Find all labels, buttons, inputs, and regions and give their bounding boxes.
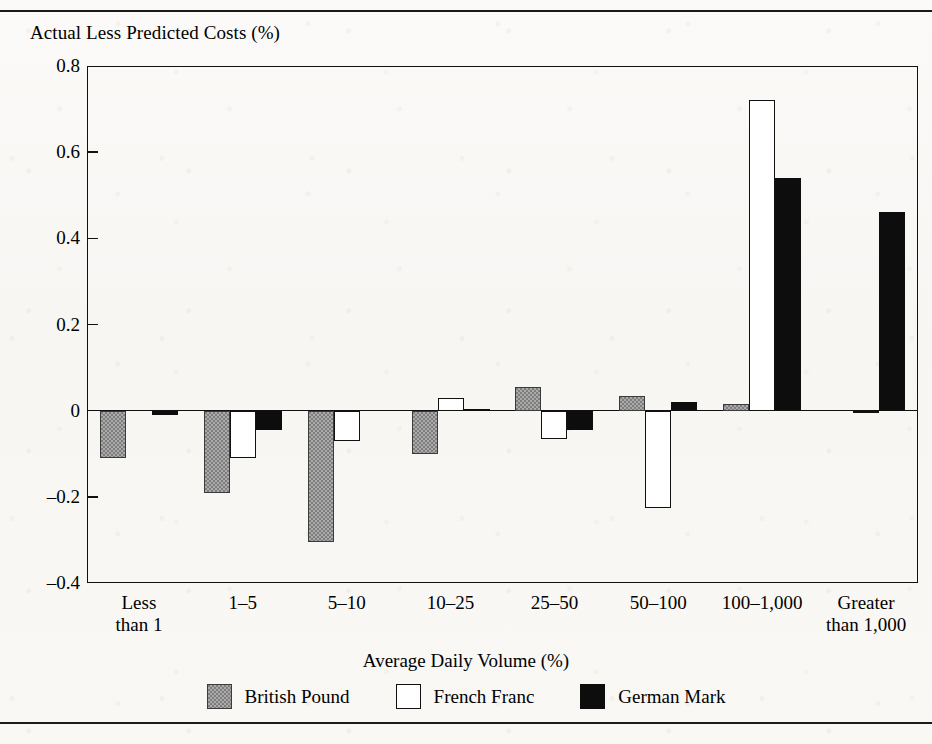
category-label-line1: 5–10 xyxy=(328,592,366,613)
bar xyxy=(152,411,178,415)
legend-swatch-black xyxy=(580,684,605,709)
y-axis-tick-label: 0.4 xyxy=(4,227,80,249)
category-label-line1: 50–100 xyxy=(630,592,687,613)
category-label-line2: than 1,000 xyxy=(826,614,906,636)
legend-item: British Pound xyxy=(207,684,350,709)
legend-swatch-white xyxy=(396,684,421,709)
x-axis-category-label: 5–10 xyxy=(328,592,366,614)
bar xyxy=(204,411,230,493)
y-axis-title: Actual Less Predicted Costs (%) xyxy=(30,22,280,44)
y-axis-tick-label: 0.6 xyxy=(4,141,80,163)
bar xyxy=(567,411,593,430)
bar xyxy=(775,178,801,411)
bar xyxy=(749,100,775,410)
legend-label: British Pound xyxy=(245,686,350,708)
bar xyxy=(308,411,334,542)
x-axis-category-label: 100–1,000 xyxy=(722,592,803,614)
bar xyxy=(879,212,905,410)
x-axis-category-label: 25–50 xyxy=(531,592,579,614)
bar xyxy=(100,411,126,458)
legend-swatch-gray xyxy=(207,684,232,709)
bar xyxy=(541,411,567,439)
category-label-line1: 10–25 xyxy=(427,592,475,613)
x-axis-category-label: 10–25 xyxy=(427,592,475,614)
bar xyxy=(464,409,490,411)
category-label-line1: 25–50 xyxy=(531,592,579,613)
legend-item: German Mark xyxy=(580,684,725,709)
bar xyxy=(515,387,541,411)
bar xyxy=(853,411,879,413)
y-axis-tick-label: 0.2 xyxy=(4,314,80,336)
bar xyxy=(230,411,256,458)
y-axis-tick-label: –0.2 xyxy=(4,486,80,508)
bar xyxy=(334,411,360,441)
category-label-line1: Less xyxy=(122,592,157,613)
y-axis-tick-label: 0.8 xyxy=(4,55,80,77)
bar xyxy=(256,411,282,430)
category-label-line1: Greater xyxy=(838,592,895,613)
bar xyxy=(723,404,749,410)
y-axis-tick-label: –0.4 xyxy=(4,572,80,594)
legend-item: French Franc xyxy=(396,684,535,709)
bar xyxy=(438,398,464,411)
bar xyxy=(671,402,697,411)
category-label-line2: than 1 xyxy=(115,614,162,636)
top-rule xyxy=(0,10,932,12)
bottom-rule xyxy=(0,722,932,724)
legend-label: German Mark xyxy=(618,686,725,708)
category-label-line1: 1–5 xyxy=(229,592,258,613)
bar xyxy=(619,396,645,411)
bar xyxy=(645,411,671,508)
x-axis-category-label: 1–5 xyxy=(229,592,258,614)
x-axis-title: Average Daily Volume (%) xyxy=(0,650,932,672)
x-axis-category-label: Lessthan 1 xyxy=(115,592,162,637)
legend-label: French Franc xyxy=(434,686,535,708)
bar xyxy=(412,411,438,454)
y-axis-tick-label: 0 xyxy=(4,400,80,422)
category-label-line1: 100–1,000 xyxy=(722,592,803,613)
x-axis-category-label: Greaterthan 1,000 xyxy=(826,592,906,637)
x-axis-category-label: 50–100 xyxy=(630,592,687,614)
bars-layer xyxy=(87,66,918,583)
legend: British PoundFrench FrancGerman Mark xyxy=(0,684,932,709)
